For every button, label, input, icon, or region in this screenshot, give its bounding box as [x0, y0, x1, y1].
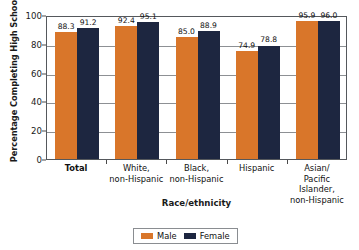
y-tick-label: 0: [16, 156, 42, 165]
bar-value-label: 96.0: [316, 12, 342, 20]
bar-female: [318, 21, 340, 159]
y-tick-label: 100: [16, 12, 42, 21]
bar-female: [137, 22, 159, 159]
bar-male: [55, 32, 77, 159]
bar-male: [296, 21, 318, 159]
x-axis-category-labels: TotalWhite,non-HispanicBlack,non-Hispani…: [46, 163, 347, 225]
legend-label: Male: [157, 232, 177, 240]
y-tick-label: 80: [16, 41, 42, 50]
legend-item-female: Female: [184, 232, 230, 240]
legend-swatch-icon: [141, 233, 153, 239]
bar-male: [236, 51, 258, 159]
bar-group: 92.495.1: [115, 17, 159, 159]
x-category-label-line: Asian/: [281, 163, 353, 174]
bar-value-label: 88.9: [196, 22, 222, 30]
chart-legend: MaleFemale: [133, 228, 238, 244]
bar-value-label: 95.1: [135, 13, 161, 21]
bar-chart: Percentage Completing High School 020406…: [0, 0, 359, 250]
bar-group: 95.996.0: [296, 17, 340, 159]
bar-male: [176, 37, 198, 159]
bar-female: [198, 31, 220, 159]
y-tick-label: 20: [16, 127, 42, 136]
bars-layer: 88.391.292.495.185.088.974.978.895.996.0: [47, 17, 346, 159]
legend-item-male: Male: [141, 232, 177, 240]
plot-area: 88.391.292.495.185.088.974.978.895.996.0: [46, 16, 347, 160]
bar-group: 85.088.9: [176, 17, 220, 159]
legend-label: Female: [200, 232, 230, 240]
bar-group: 74.978.8: [236, 17, 280, 159]
y-axis-ticks: 020406080100: [14, 0, 42, 250]
bar-male: [115, 26, 137, 159]
bar-value-label: 91.2: [75, 19, 101, 27]
bar-group: 88.391.2: [55, 17, 99, 159]
x-axis-title: Race/ethnicity: [46, 199, 347, 208]
x-category-label-line: Pacific: [281, 174, 353, 185]
bar-value-label: 78.8: [256, 36, 282, 44]
x-category-label-line: Islander,: [281, 184, 353, 195]
x-category-label-line: non-Hispanic: [160, 174, 232, 185]
bar-female: [258, 46, 280, 159]
y-tick-label: 60: [16, 69, 42, 78]
y-tick-label: 40: [16, 98, 42, 107]
legend-swatch-icon: [184, 233, 196, 239]
bar-female: [77, 28, 99, 159]
